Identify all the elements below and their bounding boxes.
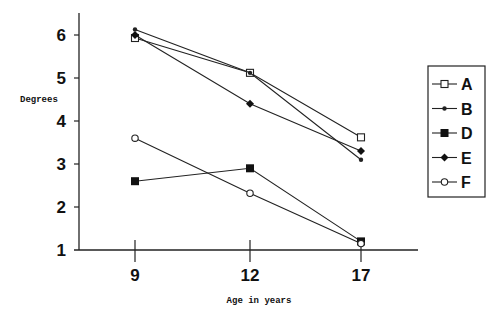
x-tick-label: 12 [241,266,260,285]
legend-label: A [461,76,473,93]
legend-label: E [461,150,472,167]
series-line [135,168,361,241]
legend-box [428,66,485,197]
y-tick-label: 6 [57,26,66,45]
y-tick-label: 2 [57,198,66,217]
y-tick-label: 1 [57,241,66,260]
series-line [135,29,361,159]
marker-dot [442,106,446,110]
marker-dot [359,158,363,162]
y-tick-label: 4 [57,112,67,131]
marker-dot [248,71,252,75]
x-axis-title: Age in years [227,296,292,306]
marker-dot [133,27,137,31]
legend-label: B [461,101,473,118]
legend: ABDEF [428,66,485,197]
y-tick-label: 5 [57,69,66,88]
y-axis-title: Degrees [20,95,58,105]
marker-open-circle [247,190,253,196]
series-F [132,135,364,247]
series-E [131,31,365,155]
series-group [131,27,365,247]
marker-open-circle [132,135,138,141]
legend-label: F [461,174,471,191]
marker-open-square [441,81,448,88]
legend-label: D [461,125,473,142]
marker-filled-square [131,177,139,185]
series-D [131,164,365,245]
x-tick-label: 9 [130,266,139,285]
marker-open-square [358,134,365,141]
marker-filled-square [441,129,449,137]
marker-filled-diamond [357,147,365,155]
marker-filled-diamond [246,100,254,108]
y-tick-label: 3 [57,155,66,174]
series-A [132,35,365,141]
x-tick-label: 17 [352,266,371,285]
marker-open-circle [358,240,364,246]
marker-open-circle [441,179,447,185]
series-line [135,38,361,137]
line-chart: 12345691217 ABDEF Degrees Age in years [0,0,499,318]
marker-filled-square [246,164,254,172]
